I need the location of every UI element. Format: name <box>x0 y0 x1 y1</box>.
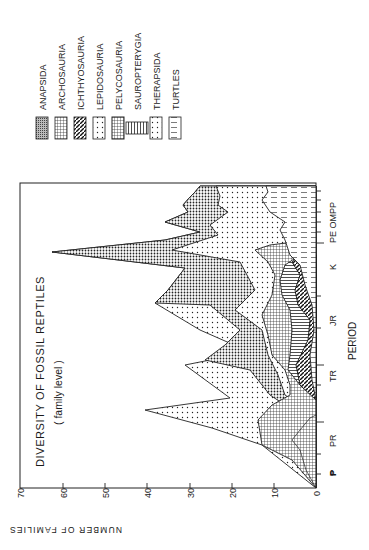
period-label: PR <box>328 434 338 447</box>
ichthyosauria-swatch <box>74 117 86 139</box>
archosauria-swatch <box>55 117 67 139</box>
period-label: PE OMPP <box>328 202 338 243</box>
chart-subtitle: ( family level ) <box>52 360 64 425</box>
sauropterygia-swatch <box>126 122 148 134</box>
period-labels: ₱ PR TR JR K PE OMPP <box>328 202 338 476</box>
legend-label: TURTLES <box>171 69 181 110</box>
chart-title: DIVERSITY OF FOSSIL REPTILES <box>34 276 46 467</box>
x-axis-label: PERIOD <box>347 322 358 360</box>
legend-item-therapsida: THERAPSIDA <box>150 52 162 139</box>
legend-label: LEPIDOSAURIA <box>95 43 105 110</box>
legend-label: THERAPSIDA <box>152 52 162 110</box>
y-tick-label: 70 <box>16 488 26 498</box>
stacked-areas <box>52 186 316 488</box>
legend-item-anapsida: ANAPSIDA <box>36 64 48 139</box>
legend-label: SAUROPTERYGIA <box>133 33 143 110</box>
period-label: JR <box>328 315 338 327</box>
y-axis <box>63 483 316 488</box>
legend-item-pelycosauria: PELYCOSAURIA <box>112 41 124 139</box>
y-tick-label: 60 <box>59 488 69 498</box>
period-label: K <box>328 264 338 270</box>
y-tick-labels: 0 10 20 30 40 50 60 70 <box>16 488 322 498</box>
pelycosauria-swatch <box>112 117 124 139</box>
legend-label: ANAPSIDA <box>38 64 48 110</box>
legend-item-lepidosauria: LEPIDOSAURIA <box>93 43 105 139</box>
y-tick-label: 40 <box>143 488 153 498</box>
legend-label: ICHTHYOSAURIA <box>76 36 86 110</box>
period-label: ₱ <box>328 470 338 476</box>
legend-label: ARCHOSAURIA <box>57 44 67 110</box>
legend: ANAPSIDA ARCHOSAURIA ICHTHYOSAURIA LEPID… <box>36 33 181 139</box>
therapsida-swatch <box>150 117 162 139</box>
anapsida-swatch <box>36 117 48 139</box>
y-axis-label: NUMBER OF FAMILIES <box>9 525 122 535</box>
period-label: TR <box>328 370 338 382</box>
legend-item-turtles: TURTLES <box>169 69 181 139</box>
chart-canvas: ANAPSIDA ARCHOSAURIA ICHTHYOSAURIA LEPID… <box>0 0 369 550</box>
y-tick-label: 30 <box>186 488 196 498</box>
legend-item-ichthyosauria: ICHTHYOSAURIA <box>74 36 86 139</box>
lepidosauria-swatch <box>93 117 105 139</box>
turtles-swatch <box>169 117 181 139</box>
y-tick-label: 0 <box>312 491 322 496</box>
legend-label: PELYCOSAURIA <box>114 41 124 110</box>
y-tick-label: 20 <box>228 488 238 498</box>
y-tick-label: 50 <box>101 488 111 498</box>
y-tick-label: 10 <box>270 488 280 498</box>
legend-item-archosauria: ARCHOSAURIA <box>55 44 67 139</box>
period-axis <box>316 191 324 474</box>
legend-item-sauropterygia: SAUROPTERYGIA <box>126 33 148 134</box>
